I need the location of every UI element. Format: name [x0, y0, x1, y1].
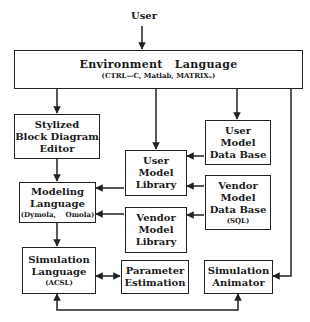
vendor-model-library-box: Vendor Model Library	[125, 207, 187, 253]
simulation-animator-box: Simulation Animator	[204, 260, 273, 294]
modeling-language-box: Modeling Language (Dymola, Omola)	[19, 182, 96, 223]
environment-language-title: EnvironmentLanguage	[74, 59, 244, 71]
edge-environment-simulation-animator	[273, 89, 291, 276]
environment-language-subtitle: (CTRL—C, Matlab, MATRIXₓ)	[102, 71, 216, 81]
user-model-library-box: User Model Library	[125, 150, 187, 196]
environment-language-box: EnvironmentLanguage (CTRL—C, Matlab, MAT…	[14, 50, 303, 89]
simulation-language-box: Simulation Language (ACSL)	[22, 247, 96, 294]
stylized-block-diagram-editor-box: Stylized Block Diagram Editor	[14, 114, 100, 159]
edge-simulation-language-simulation-animator	[57, 294, 238, 310]
vendor-model-data-base-box: Vendor Model Data Base (SQL)	[205, 175, 271, 230]
parameter-estimation-box: Parameter Estimation	[121, 260, 189, 294]
user-input-label: User	[131, 10, 157, 21]
user-model-data-base-box: User Model Data Base	[205, 120, 271, 165]
